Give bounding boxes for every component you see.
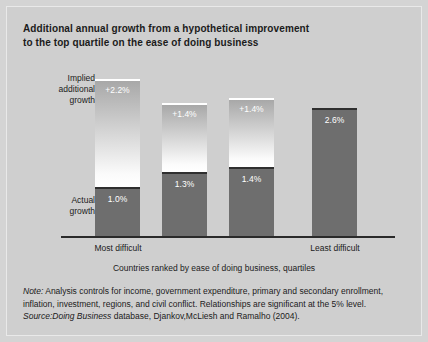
bar-0: +2.2%1.0% [95,79,140,236]
bar-2-implied-value: +1.4% [229,104,274,114]
bar-1-actual-value: 1.3% [162,179,207,189]
legend-implied-line-1: Implied [37,73,95,84]
source-text: Source:Doing Business database, Djankov,… [23,310,415,323]
bar-1-implied-segment: +1.4% [162,103,207,172]
legend-actual-line-1: Actual [37,195,95,206]
note-text: Note: Analysis controls for income, gove… [23,285,415,310]
bar-3-actual-value: 2.6% [312,115,357,125]
figure-container: Additional annual growth from a hypothet… [0,0,428,342]
note-body: Analysis controls for income, government… [23,286,383,309]
legend-actual-line-2: growth [37,206,95,217]
legend-implied-additional-growth: Implied additional growth [37,73,95,106]
legend-actual-growth: Actual growth [37,195,95,217]
bar-2-actual-segment: 1.4% [229,167,274,236]
legend-implied-line-3: growth [37,95,95,106]
x-axis-caption: Countries ranked by ease of doing busine… [7,263,421,273]
bar-0-implied-value: +2.2% [95,85,140,95]
note-prefix: Note: [23,286,43,296]
bar-1-implied-value: +1.4% [162,109,207,119]
source-prefix: Source: [23,311,52,321]
bar-3-actual-segment: 2.6% [312,108,357,236]
bar-2-actual-value: 1.4% [229,174,274,184]
bar-1-actual-segment: 1.3% [162,172,207,236]
source-publication: Doing Business [52,311,111,321]
figure-frame: Additional annual growth from a hypothet… [6,6,422,336]
bar-3: 2.6% [312,108,357,236]
bar-1: +1.4%1.3% [162,103,207,236]
bar-0-implied-segment: +2.2% [95,79,140,187]
category-label-most-difficult: Most difficult [73,243,163,253]
source-body: database, Djankov,McLiesh and Ramalho (2… [111,311,299,321]
x-axis-line [61,236,395,238]
bar-2: +1.4%1.4% [229,98,274,236]
footnotes: Note: Analysis controls for income, gove… [23,285,415,323]
legend-implied-line-2: additional [37,84,95,95]
bar-0-actual-value: 1.0% [95,194,140,204]
bar-2-implied-segment: +1.4% [229,98,274,167]
category-label-least-difficult: Least difficult [290,243,380,253]
bar-0-actual-segment: 1.0% [95,187,140,236]
